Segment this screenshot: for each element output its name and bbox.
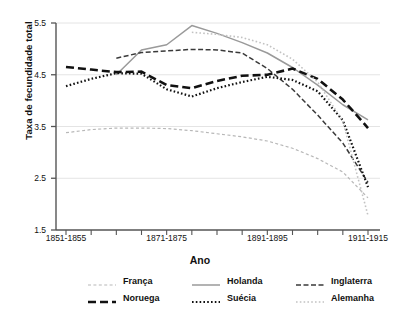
legend-row: NoruegaSuéciaAlemanha (0, 293, 400, 303)
x-tick-marks (66, 230, 368, 235)
x-tick-label: 1911-1915 (333, 233, 400, 243)
legend-item-frança[interactable]: França (88, 276, 192, 286)
legend-item-noruega[interactable]: Noruega (88, 293, 192, 303)
x-axis-title: Ano (0, 254, 400, 266)
series-line-holanda (116, 26, 368, 120)
legend-label: Alemanha (331, 293, 374, 303)
chart-legend: FrançaHolandaInglaterraNoruegaSuéciaAlem… (0, 276, 400, 310)
x-tick-label: 1891-1895 (232, 233, 302, 243)
y-tick-label: 2.5 (20, 173, 46, 183)
legend-swatch-icon (88, 276, 116, 286)
plot-area (0, 0, 400, 250)
series-line-noruega (66, 67, 368, 128)
x-tick-label: 1871-1875 (132, 233, 202, 243)
legend-label: Holanda (227, 276, 263, 286)
legend-item-alemanha[interactable]: Alemanha (296, 293, 400, 303)
y-tick-label: 3.5 (20, 122, 46, 132)
gridlines (56, 23, 380, 178)
legend-label: Noruega (123, 293, 160, 303)
legend-swatch-icon (296, 293, 324, 303)
y-tick-label: 4.5 (20, 70, 46, 80)
series-line-franca (66, 128, 368, 198)
series-line-inglaterra (116, 49, 368, 182)
x-tick-label: 1851-1855 (31, 233, 101, 243)
legend-label: França (123, 276, 153, 286)
y-tick-marks (51, 23, 56, 230)
legend-label: Inglaterra (331, 276, 372, 286)
legend-swatch-icon (88, 293, 116, 303)
y-tick-label: 5.5 (20, 18, 46, 28)
legend-item-inglaterra[interactable]: Inglaterra (296, 276, 400, 286)
legend-swatch-icon (296, 276, 324, 286)
legend-row: FrançaHolandaInglaterra (0, 276, 400, 286)
fertility-rate-line-chart: Taxa de fecundidade total 1.52.53.54.55.… (0, 0, 400, 323)
legend-label: Suécia (227, 293, 256, 303)
legend-item-holanda[interactable]: Holanda (192, 276, 296, 286)
legend-swatch-icon (192, 276, 220, 286)
legend-swatch-icon (192, 293, 220, 303)
data-series-group (66, 26, 368, 216)
legend-item-suécia[interactable]: Suécia (192, 293, 296, 303)
